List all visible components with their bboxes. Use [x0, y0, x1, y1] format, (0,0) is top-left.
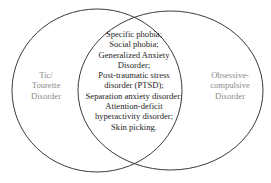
tic-tourette-label: Tic/ Tourette Disorder [22, 70, 70, 101]
intersection-line: Post-traumatic stress [74, 70, 194, 80]
intersection-line: Separation anxiety disorder; [74, 91, 194, 101]
label-line: Disorder [202, 91, 258, 101]
label-line: compulsive [202, 80, 258, 90]
intersection-line: Specific phobia; [74, 29, 194, 39]
intersection-line: disorder (PTSD); [74, 80, 194, 90]
label-line: Disorder [22, 91, 70, 101]
intersection-line: Social phobia; [74, 39, 194, 49]
intersection-line: Skin picking. [74, 122, 194, 132]
intersection-line: Disorder; [74, 60, 194, 70]
intersection-line: Attention-deficit [74, 101, 194, 111]
intersection-line: hyperactivity disorder; [74, 111, 194, 121]
intersection-label: Specific phobia; Social phobia; Generali… [74, 29, 194, 132]
label-line: Obsessive- [202, 70, 258, 80]
label-line: Tic/ [22, 70, 70, 80]
ocd-label: Obsessive- compulsive Disorder [202, 70, 258, 101]
intersection-line: Generalized Anxiety [74, 50, 194, 60]
label-line: Tourette [22, 80, 70, 90]
